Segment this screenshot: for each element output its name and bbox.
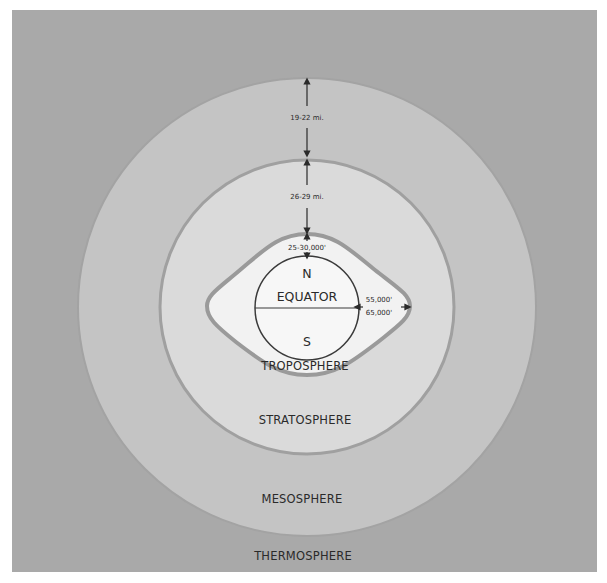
- troposphere-polar-label: 25-30,000': [288, 244, 326, 252]
- north-label: N: [302, 266, 311, 281]
- mesosphere-thickness-label: 19-22 mi.: [290, 114, 324, 122]
- troposphere-equatorial-label-1: 55,000': [366, 296, 392, 304]
- stratosphere-thickness-label: 26-29 mi.: [290, 193, 324, 201]
- equator-label: EQUATOR: [277, 289, 338, 304]
- thermosphere-label: THERMOSPHERE: [253, 549, 352, 563]
- earth-globe: N EQUATOR S: [255, 256, 359, 360]
- stratosphere-label: STRATOSPHERE: [259, 413, 352, 427]
- troposphere-label: TROPOSPHERE: [260, 359, 349, 373]
- mesosphere-label: MESOSPHERE: [262, 492, 343, 506]
- south-label: S: [303, 334, 311, 349]
- troposphere-equatorial-label-2: 65,000': [366, 309, 392, 317]
- atmosphere-diagram: N EQUATOR S 19-22 mi. 26-29 mi. 25-30,00…: [0, 0, 607, 583]
